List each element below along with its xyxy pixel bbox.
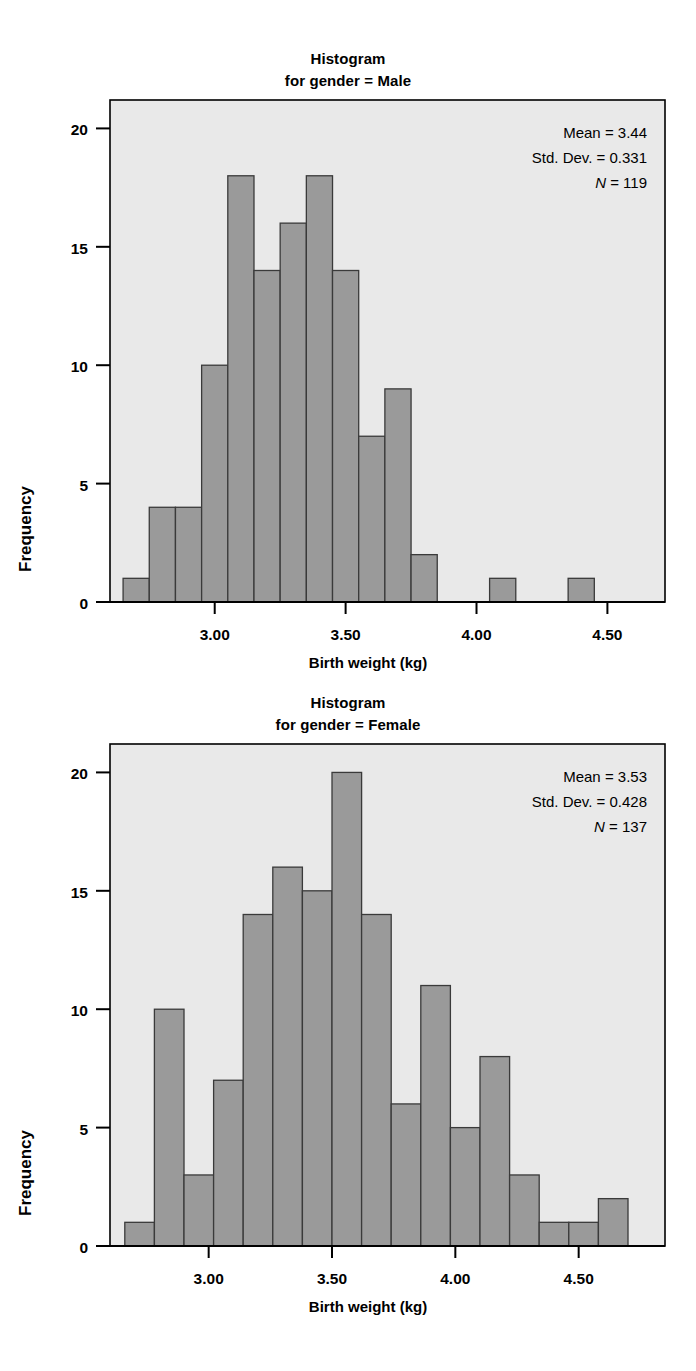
histogram-bar (421, 985, 451, 1245)
x-axis-tick-label: 4.50 (592, 626, 622, 643)
histogram-svg-male: 3.003.504.004.5005101520Mean = 3.44Std. … (0, 92, 696, 652)
histogram-bar (568, 578, 594, 602)
chart-title-female: Histogram for gender = Female (0, 686, 696, 736)
annotation-n: N = 119 (595, 174, 647, 191)
x-axis-tick-label: 3.50 (317, 1270, 347, 1287)
y-axis-tick-label: 0 (79, 1239, 88, 1256)
histogram-bar (154, 1009, 184, 1246)
x-axis-label-female: Birth weight (kg) (40, 1298, 696, 1315)
histogram-bar (569, 1222, 599, 1246)
histogram-svg-female: 3.003.504.004.5005101520Mean = 3.53Std. … (0, 736, 696, 1296)
x-axis-tick-label: 4.50 (564, 1270, 594, 1287)
x-axis-tick-label: 4.00 (461, 626, 491, 643)
chart-title-line2: for gender = Male (0, 70, 696, 92)
histogram-bar (306, 175, 332, 601)
x-axis-tick-label: 3.50 (331, 626, 361, 643)
histogram-bar (125, 1222, 155, 1246)
histogram-bar (359, 436, 385, 602)
histogram-bar (411, 554, 437, 601)
annotation-std-dev: Std. Dev. = 0.331 (532, 149, 647, 166)
histogram-bar (214, 1080, 244, 1246)
annotation-std-dev: Std. Dev. = 0.428 (532, 793, 647, 810)
annotation-mean: Mean = 3.53 (563, 768, 647, 785)
chart-title-line2: for gender = Female (0, 714, 696, 736)
y-axis-label-male: Frequency (16, 486, 36, 572)
chart-title-male: Histogram for gender = Male (0, 0, 696, 92)
histogram-bar (243, 914, 273, 1246)
y-axis-tick-label: 10 (71, 358, 88, 375)
histogram-bar (123, 578, 149, 602)
histogram-panel-male: Histogram for gender = Male Frequency 3.… (0, 0, 696, 686)
plot-area-male: Frequency 3.003.504.004.5005101520Mean =… (0, 92, 696, 671)
y-axis-tick-label: 20 (71, 765, 88, 782)
chart-title-line1: Histogram (0, 692, 696, 714)
histogram-bar (332, 772, 362, 1246)
y-axis-tick-label: 5 (79, 1120, 88, 1137)
histogram-bar (480, 1056, 510, 1245)
histogram-bar (254, 270, 280, 602)
histogram-bar (450, 1127, 480, 1245)
histogram-bar (385, 388, 411, 601)
plot-area-female: Frequency 3.003.504.004.5005101520Mean =… (0, 736, 696, 1315)
y-axis-tick-label: 5 (79, 476, 88, 493)
histogram-bar (302, 890, 332, 1245)
y-axis-label-female: Frequency (16, 1130, 36, 1216)
histogram-bar (273, 867, 303, 1246)
y-axis-tick-label: 20 (71, 121, 88, 138)
histogram-bar (490, 578, 516, 602)
histogram-bar (333, 270, 359, 602)
histogram-bar (362, 914, 392, 1246)
histogram-panel-female: Histogram for gender = Female Frequency … (0, 686, 696, 1371)
x-axis-label-male: Birth weight (kg) (40, 654, 696, 671)
y-axis-tick-label: 10 (71, 1002, 88, 1019)
histogram-bar (149, 507, 175, 602)
histogram-bar (598, 1198, 628, 1245)
y-axis-tick-label: 0 (79, 595, 88, 612)
histogram-bar (391, 1103, 421, 1245)
histogram-bar (202, 365, 228, 602)
x-axis-tick-label: 3.00 (194, 1270, 224, 1287)
chart-title-line1: Histogram (0, 48, 696, 70)
histogram-bar (228, 175, 254, 601)
annotation-mean: Mean = 3.44 (563, 124, 647, 141)
y-axis-tick-label: 15 (71, 239, 89, 256)
histogram-bar (184, 1174, 214, 1245)
histogram-bar (280, 223, 306, 602)
histogram-bar (539, 1222, 569, 1246)
y-axis-tick-label: 15 (71, 883, 89, 900)
annotation-n: N = 137 (594, 818, 647, 835)
histogram-bar (175, 507, 201, 602)
x-axis-tick-label: 3.00 (200, 626, 230, 643)
histogram-bar (510, 1174, 540, 1245)
x-axis-tick-label: 4.00 (440, 1270, 470, 1287)
